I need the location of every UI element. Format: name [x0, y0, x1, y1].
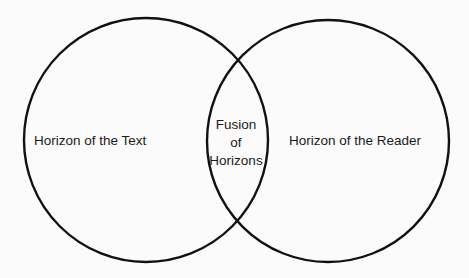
horizon-of-reader-label: Horizon of the Reader [289, 134, 421, 148]
venn-diagram: Horizon of the Text Fusion of Horizons H… [0, 0, 469, 278]
fusion-of-horizons-label: Fusion of Horizons [196, 116, 276, 170]
horizon-of-text-label: Horizon of the Text [34, 134, 146, 148]
fusion-line-1: Fusion [196, 116, 276, 134]
fusion-line-2: of [196, 134, 276, 152]
fusion-line-3: Horizons [196, 152, 276, 170]
